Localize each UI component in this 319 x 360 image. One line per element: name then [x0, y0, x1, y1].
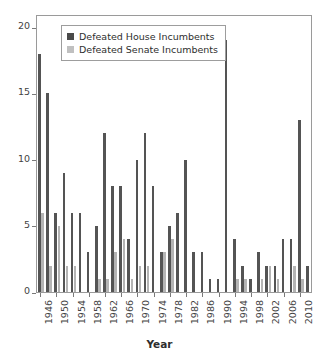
x-tick-label: 1970	[141, 300, 151, 324]
x-tick-mark	[300, 293, 301, 297]
bar-senate-1996	[244, 279, 247, 292]
x-tick-label: 2002	[271, 300, 281, 324]
bar-house-1978	[168, 226, 171, 292]
bar-house-1958	[87, 252, 90, 292]
bar-house-1988	[209, 279, 212, 292]
bar-house-1956	[79, 213, 82, 292]
x-tick-label: 2010	[304, 300, 314, 324]
x-tick-mark	[121, 293, 122, 297]
bar-house-1966	[119, 186, 122, 292]
x-tick-label: 1954	[77, 300, 87, 324]
bar-senate-1970	[139, 266, 142, 292]
bar-senate-1948	[49, 266, 52, 292]
x-tick-mark	[56, 293, 57, 297]
bar-house-1984	[192, 252, 195, 292]
senate-swatch-icon	[67, 46, 74, 53]
y-tick-label: 10	[18, 154, 30, 164]
bar-house-1986	[201, 252, 204, 292]
bar-senate-1946	[41, 213, 44, 292]
bar-senate-1952	[66, 266, 69, 292]
x-tick-label: 1998	[255, 300, 265, 324]
bar-senate-1972	[147, 266, 150, 292]
bar-house-1968	[127, 239, 130, 292]
x-tick-mark	[40, 293, 41, 297]
bar-house-1974	[152, 186, 155, 292]
bar-house-1962	[103, 133, 106, 292]
x-tick-mark	[105, 293, 106, 297]
x-tick-label: 1950	[60, 300, 70, 324]
house-swatch-icon	[67, 33, 74, 40]
bar-house-1948	[46, 93, 49, 292]
bar-senate-1976	[163, 252, 166, 292]
x-tick-mark	[284, 293, 285, 297]
bar-house-2008	[290, 239, 293, 292]
bar-senate-1954	[74, 266, 77, 292]
bar-house-2010	[298, 120, 301, 292]
x-tick-mark	[251, 293, 252, 297]
bar-senate-1964	[114, 252, 117, 292]
x-tick-label: 1994	[239, 300, 249, 324]
bar-senate-1966	[123, 239, 126, 292]
x-tick-mark	[73, 293, 74, 297]
x-tick-label: 1978	[174, 300, 184, 324]
bar-senate-1960	[98, 279, 101, 292]
bar-house-1970	[136, 160, 139, 292]
bar-senate-1994	[236, 279, 239, 292]
bar-senate-1962	[106, 279, 109, 292]
x-tick-mark	[267, 293, 268, 297]
x-tick-label: 1958	[93, 300, 103, 324]
x-tick-mark	[235, 293, 236, 297]
bar-house-2004	[274, 266, 277, 292]
bar-house-2006	[282, 239, 285, 292]
x-tick-mark	[186, 293, 187, 297]
x-tick-label: 1974	[158, 300, 168, 324]
x-tick-mark	[202, 293, 203, 297]
legend-label-senate: Defeated Senate Incumbents	[79, 44, 218, 55]
y-axis: 05101520	[0, 15, 36, 293]
bar-senate-2002	[269, 266, 272, 292]
bar-house-1950	[54, 213, 57, 292]
x-tick-mark	[219, 293, 220, 297]
x-tick-label: 1946	[44, 300, 54, 324]
x-axis-title: Year	[0, 338, 319, 350]
x-tick-label: 1966	[125, 300, 135, 324]
bar-house-2002	[265, 266, 268, 292]
x-tick-label: 1990	[223, 300, 233, 324]
x-tick-mark	[89, 293, 90, 297]
y-tick-label: 5	[24, 220, 30, 230]
x-tick-label: 1982	[190, 300, 200, 324]
x-tick-label: 2006	[288, 300, 298, 324]
x-tick-mark	[137, 293, 138, 297]
bar-senate-2000	[261, 279, 264, 292]
bar-senate-2004	[277, 279, 280, 292]
bar-senate-2010	[301, 279, 304, 292]
bar-house-1996	[241, 266, 244, 292]
bar-house-1964	[111, 186, 114, 292]
x-tick-mark	[154, 293, 155, 297]
bar-senate-1950	[58, 226, 61, 292]
x-tick-label: 1962	[109, 300, 119, 324]
legend-label-house: Defeated House Incumbents	[79, 31, 214, 42]
bar-house-1954	[71, 213, 74, 292]
bar-house-2012	[306, 266, 309, 292]
bar-house-1960	[95, 226, 98, 292]
bar-house-1982	[184, 160, 187, 292]
x-axis: 1946195019541958196219661970197419781982…	[36, 293, 312, 343]
bar-house-1994	[233, 239, 236, 292]
x-tick-label: 1986	[206, 300, 216, 324]
bar-house-2000	[257, 252, 260, 292]
y-tick-label: 15	[18, 87, 30, 97]
bar-house-1990	[217, 279, 220, 292]
chart-legend: Defeated House Incumbents Defeated Senat…	[61, 25, 226, 61]
bar-house-1980	[176, 213, 179, 292]
bar-house-1998	[249, 279, 252, 292]
bar-senate-1978	[171, 239, 174, 292]
bar-senate-1968	[131, 279, 134, 292]
x-tick-mark	[170, 293, 171, 297]
legend-item-house: Defeated House Incumbents	[67, 30, 218, 43]
bar-house-1992	[225, 40, 228, 292]
y-tick-label: 0	[24, 286, 30, 296]
legend-item-senate: Defeated Senate Incumbents	[67, 43, 218, 56]
bar-house-1952	[63, 173, 66, 292]
bar-senate-2008	[293, 266, 296, 292]
